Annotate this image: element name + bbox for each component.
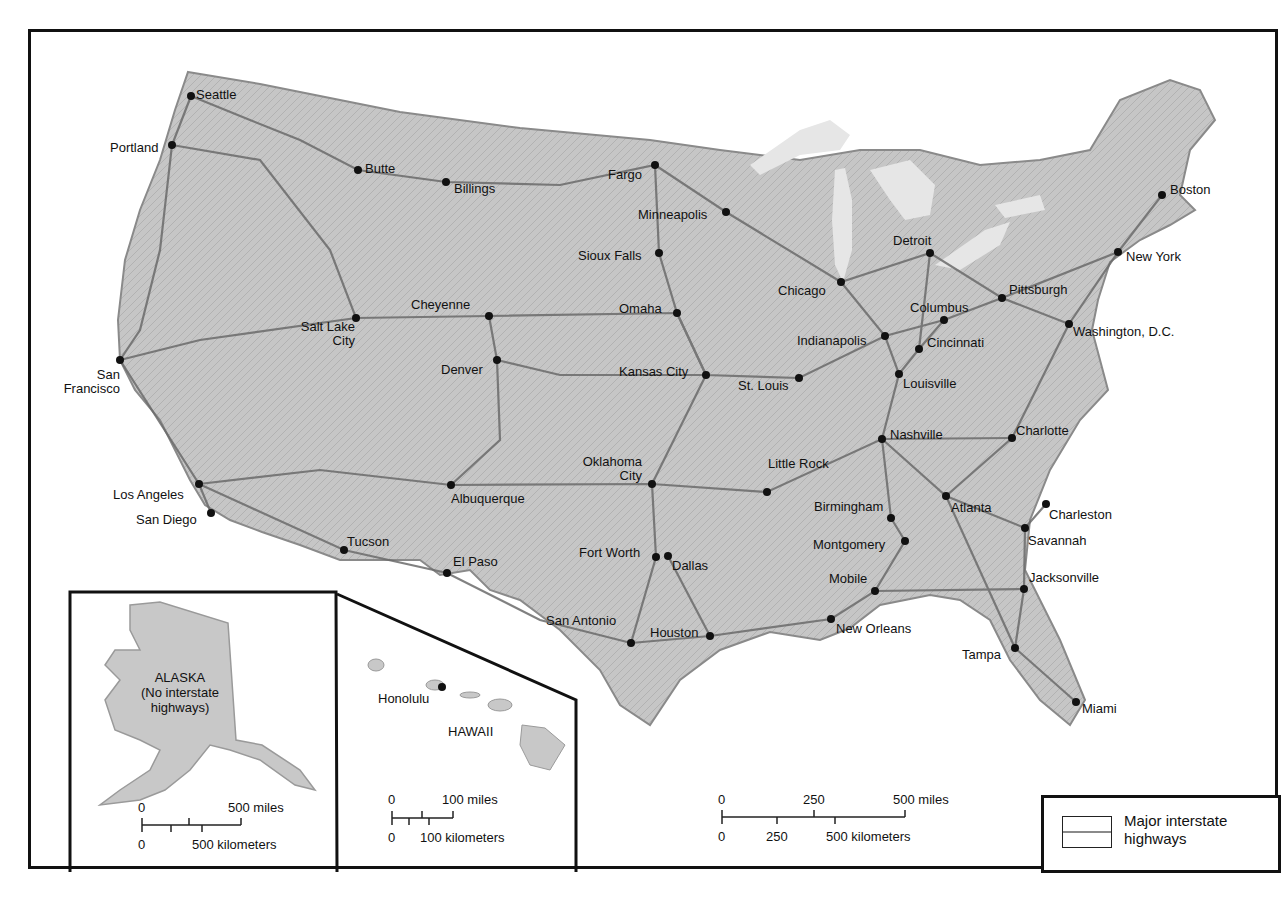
city-label: San Diego [136, 513, 197, 527]
city-label: El Paso [453, 555, 498, 569]
city-label: Pittsburgh [1009, 283, 1068, 297]
alaska-scale-km-zero: 0 [138, 838, 145, 852]
city-dot-icon [722, 208, 730, 216]
city-dot-icon [1021, 524, 1029, 532]
city-dot-icon [207, 509, 215, 517]
city-label: Columbus [910, 301, 969, 315]
legend: Major interstate highways [1041, 795, 1281, 873]
city-label: Billings [454, 182, 495, 196]
city-label: Louisville [903, 377, 956, 391]
city-dot-icon [116, 356, 124, 364]
main-scale-miles-mid: 250 [803, 793, 825, 807]
honolulu-dot [438, 683, 446, 691]
city-dot-icon [664, 552, 672, 560]
city-label: Detroit [893, 234, 931, 248]
city-label: Chicago [778, 284, 826, 298]
city-dot-icon [485, 312, 493, 320]
city-label: Tampa [962, 648, 1001, 662]
city-label: Salt Lake City [285, 320, 355, 348]
city-label: Albuquerque [451, 492, 525, 506]
city-label: New Orleans [836, 622, 911, 636]
legend-label-line2: highways [1124, 830, 1227, 848]
main-scale-miles-max: 500 miles [893, 793, 949, 807]
city-dot-icon [881, 332, 889, 340]
hawaii-scale-km-max: 100 kilometers [420, 831, 505, 845]
city-label: Nashville [890, 428, 943, 442]
city-label: Houston [650, 626, 698, 640]
city-dot-icon [648, 480, 656, 488]
city-label: Miami [1082, 702, 1117, 716]
alaska-scale-miles-max: 500 miles [228, 801, 284, 815]
city-dot-icon [915, 345, 923, 353]
alaska-note-line2: highways) [110, 700, 250, 715]
city-dot-icon [443, 569, 451, 577]
city-label: Savannah [1028, 534, 1087, 548]
city-label: Fargo [608, 168, 642, 182]
city-dot-icon [652, 553, 660, 561]
city-label: Cincinnati [927, 336, 984, 350]
city-label: Jacksonville [1029, 571, 1099, 585]
main-scale-km-zero: 0 [718, 830, 725, 844]
legend-label: Major interstate highways [1124, 812, 1227, 848]
hawaii-scale-km-zero: 0 [388, 831, 395, 845]
alaska-scale-km-max: 500 kilometers [192, 838, 277, 852]
city-label: Denver [441, 363, 483, 377]
city-dot-icon [627, 639, 635, 647]
city-label: San Francisco [50, 368, 120, 396]
city-dot-icon [998, 294, 1006, 302]
city-dot-icon [878, 435, 886, 443]
city-label: Butte [365, 162, 395, 176]
alaska-note-line1: (No interstate [110, 685, 250, 700]
city-dot-icon [1008, 434, 1016, 442]
city-dot-icon [1072, 698, 1080, 706]
city-dot-icon [493, 356, 501, 364]
city-dot-icon [168, 141, 176, 149]
city-dot-icon [187, 92, 195, 100]
city-label: Washington, D.C. [1073, 325, 1174, 339]
city-label: Fort Worth [579, 546, 640, 560]
city-label: Tucson [347, 535, 389, 549]
hawaii-scale-miles-max: 100 miles [442, 793, 498, 807]
city-dot-icon [1020, 585, 1028, 593]
city-dot-icon [673, 309, 681, 317]
hawaii-islands [368, 659, 565, 770]
city-label: Birmingham [814, 500, 883, 514]
city-label: Cheyenne [411, 298, 470, 312]
city-dot-icon [655, 249, 663, 257]
city-dot-icon [1065, 320, 1073, 328]
city-label: Montgomery [813, 538, 885, 552]
highway-legend-swatch-icon [1062, 816, 1112, 848]
legend-label-line1: Major interstate [1124, 812, 1227, 830]
city-label: Sioux Falls [578, 249, 642, 263]
hawaii-scale-miles-zero: 0 [388, 793, 395, 807]
city-dot-icon [871, 587, 879, 595]
city-label: Charlotte [1016, 424, 1069, 438]
city-dot-icon [706, 632, 714, 640]
city-dot-icon [651, 161, 659, 169]
city-dot-icon [837, 278, 845, 286]
honolulu-label: Honolulu [378, 692, 429, 706]
city-dot-icon [942, 492, 950, 500]
main-scale-km-mid: 250 [766, 830, 788, 844]
city-dot-icon [763, 488, 771, 496]
alaska-title: ALASKA [110, 670, 250, 685]
city-label: Boston [1170, 183, 1210, 197]
city-label: Mobile [829, 572, 867, 586]
city-dot-icon [795, 374, 803, 382]
city-dot-icon [926, 249, 934, 257]
city-dot-icon [195, 480, 203, 488]
city-dot-icon [442, 178, 450, 186]
main-scale-miles-zero: 0 [718, 793, 725, 807]
alaska-scale-miles-zero: 0 [138, 801, 145, 815]
main-scale-km-max: 500 kilometers [826, 830, 911, 844]
city-label: Kansas City [619, 365, 688, 379]
city-label: Seattle [196, 88, 236, 102]
city-dot-icon [827, 615, 835, 623]
city-label: Los Angeles [113, 488, 184, 502]
city-dot-icon [940, 316, 948, 324]
city-dot-icon [702, 371, 710, 379]
city-dot-icon [1158, 191, 1166, 199]
city-label: Little Rock [768, 457, 838, 471]
city-dot-icon [901, 537, 909, 545]
city-label: Omaha [619, 302, 662, 316]
